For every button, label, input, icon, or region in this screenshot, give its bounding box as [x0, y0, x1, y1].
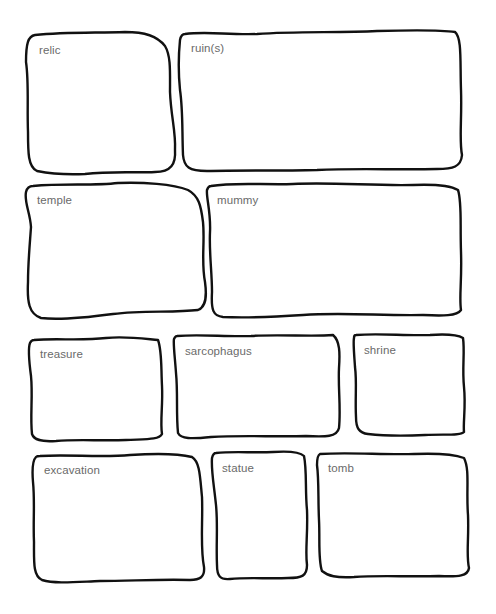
box-label: sarcophagus [185, 345, 252, 357]
box-label: tomb [328, 462, 354, 474]
vocab-box-mummy[interactable]: mummy [203, 182, 463, 320]
vocab-box-tomb[interactable]: tomb [314, 450, 470, 580]
vocab-box-ruins[interactable]: ruin(s) [177, 30, 463, 172]
vocab-box-treasure[interactable]: treasure [26, 336, 164, 443]
vocab-box-excavation[interactable]: excavation [30, 452, 206, 585]
box-label: excavation [44, 464, 100, 476]
vocab-box-sarcophagus[interactable]: sarcophagus [171, 333, 342, 442]
box-label: ruin(s) [191, 42, 224, 54]
vocab-box-shrine[interactable]: shrine [350, 332, 466, 437]
box-label: treasure [40, 348, 83, 360]
vocab-box-relic[interactable]: relic [25, 32, 177, 175]
vocab-box-statue[interactable]: statue [208, 450, 310, 582]
vocab-box-temple[interactable]: temple [23, 182, 209, 322]
box-label: temple [37, 194, 72, 206]
box-label: statue [222, 462, 254, 474]
box-label: shrine [364, 344, 396, 356]
cut-off-instruction-text [0, 0, 496, 3]
box-label: relic [39, 44, 61, 56]
box-label: mummy [217, 194, 258, 206]
